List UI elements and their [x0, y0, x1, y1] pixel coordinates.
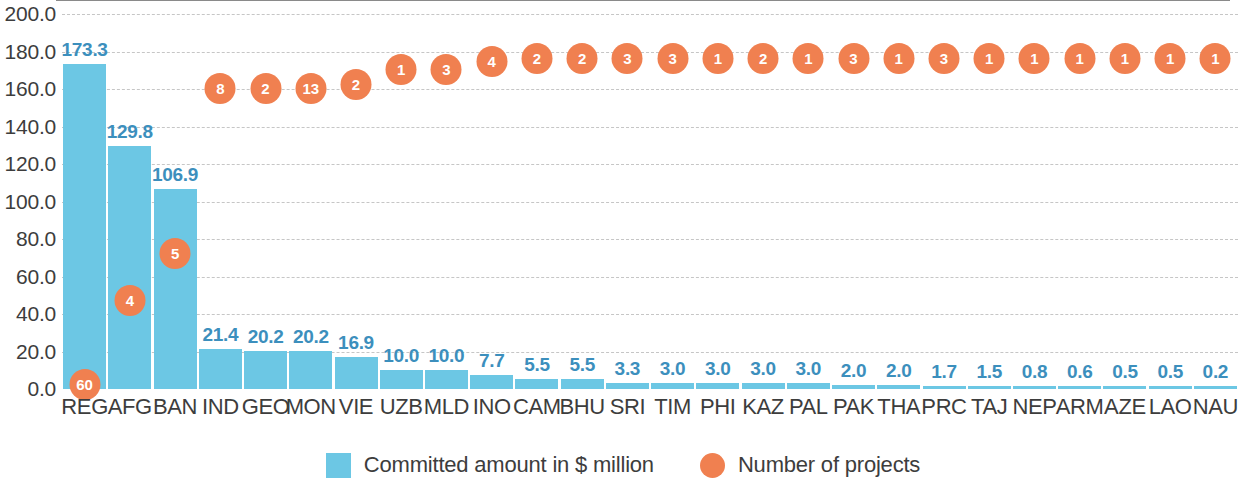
bar-group[interactable]: 10.03 — [425, 0, 468, 392]
legend-label: Number of projects — [738, 452, 920, 478]
bar-group[interactable]: 0.51 — [1149, 0, 1192, 392]
bar-group[interactable]: 10.01 — [380, 0, 423, 392]
bar-group[interactable]: 0.61 — [1058, 0, 1101, 392]
bar[interactable] — [1149, 386, 1192, 389]
bar-group[interactable]: 3.33 — [606, 0, 649, 392]
bar[interactable] — [696, 383, 739, 389]
project-count-bubble[interactable]: 4 — [114, 285, 145, 316]
bar[interactable] — [742, 383, 785, 389]
bar[interactable] — [289, 351, 332, 389]
bar[interactable] — [968, 386, 1011, 389]
bar[interactable] — [470, 375, 513, 389]
bar-group[interactable]: 3.01 — [787, 0, 830, 392]
x-tick-slot: TAJ — [967, 394, 1012, 430]
project-count-bubble[interactable]: 2 — [567, 43, 598, 74]
project-count-bubble[interactable]: 8 — [205, 73, 236, 104]
bar[interactable] — [244, 351, 287, 389]
bar[interactable] — [651, 383, 694, 389]
bar[interactable] — [1013, 386, 1056, 389]
y-tick-label: 120.0 — [4, 152, 56, 176]
project-count-bubble[interactable]: 2 — [250, 73, 281, 104]
project-count-bubble[interactable]: 3 — [657, 43, 688, 74]
project-count-bubble[interactable]: 3 — [431, 54, 462, 85]
project-count-bubble[interactable]: 1 — [1109, 43, 1140, 74]
bar-group[interactable]: 129.84 — [108, 0, 151, 392]
project-count-bubble[interactable]: 3 — [612, 43, 643, 74]
bar[interactable] — [154, 189, 197, 389]
bar[interactable] — [787, 383, 830, 389]
bar[interactable] — [335, 357, 378, 389]
project-count-bubble[interactable]: 1 — [1064, 43, 1095, 74]
bar-group[interactable]: 3.03 — [651, 0, 694, 392]
bar-group[interactable]: 3.01 — [696, 0, 739, 392]
x-tick-slot: PRC — [921, 394, 966, 430]
bar-group[interactable]: 0.21 — [1194, 0, 1237, 392]
project-count-bubble[interactable]: 2 — [748, 43, 779, 74]
bar-group[interactable]: 20.22 — [244, 0, 287, 392]
legend-circle-icon — [700, 453, 725, 478]
project-count-bubble[interactable]: 1 — [1155, 43, 1186, 74]
project-count-bubble[interactable]: 1 — [386, 54, 417, 85]
bar-group[interactable]: 16.92 — [335, 0, 378, 392]
project-count-bubble[interactable]: 1 — [702, 43, 733, 74]
bar-group[interactable]: 0.81 — [1013, 0, 1056, 392]
project-count-bubble[interactable]: 1 — [974, 43, 1005, 74]
legend-item[interactable]: Number of projects — [700, 452, 920, 478]
project-count-bubble[interactable]: 1 — [883, 43, 914, 74]
bar[interactable] — [515, 379, 558, 389]
bar[interactable] — [380, 370, 423, 389]
project-count-bubble[interactable]: 3 — [838, 43, 869, 74]
bar[interactable] — [425, 370, 468, 389]
project-count-bubble[interactable]: 4 — [476, 46, 507, 77]
x-tick-label: KAZ — [742, 394, 784, 420]
bar-group[interactable]: 2.01 — [877, 0, 920, 392]
bar-group[interactable]: 2.03 — [832, 0, 875, 392]
project-count-bubble[interactable]: 5 — [160, 238, 191, 269]
legend-item[interactable]: Committed amount in $ million — [326, 452, 654, 478]
x-tick-slot: BHU — [560, 394, 605, 430]
x-tick-slot: VIE — [333, 394, 378, 430]
bar[interactable] — [923, 386, 966, 389]
x-tick-label: TAJ — [971, 394, 1007, 420]
bar-group[interactable]: 3.02 — [742, 0, 785, 392]
bar[interactable] — [1103, 386, 1146, 389]
bar-group[interactable]: 0.51 — [1103, 0, 1146, 392]
project-count-bubble[interactable]: 3 — [929, 43, 960, 74]
bar-group[interactable]: 106.95 — [154, 0, 197, 392]
bar-group[interactable]: 1.73 — [923, 0, 966, 392]
bar-group[interactable]: 5.52 — [515, 0, 558, 392]
x-tick-label: AFG — [108, 394, 152, 420]
bar-value-label: 0.5 — [1157, 361, 1183, 383]
bar[interactable] — [1058, 386, 1101, 389]
legend-square-icon — [326, 453, 351, 478]
project-count-bubble[interactable]: 13 — [295, 73, 326, 104]
bar[interactable] — [561, 379, 604, 389]
bar-group[interactable]: 5.52 — [561, 0, 604, 392]
chart-legend: Committed amount in $ millionNumber of p… — [0, 452, 1246, 478]
bar-group[interactable]: 7.74 — [470, 0, 513, 392]
bar-group[interactable]: 1.51 — [968, 0, 1011, 392]
bar[interactable] — [63, 64, 106, 389]
bar[interactable] — [199, 349, 242, 389]
bar-group[interactable]: 21.48 — [199, 0, 242, 392]
y-tick-label: 160.0 — [4, 77, 56, 101]
bar-group[interactable]: 20.213 — [289, 0, 332, 392]
bar[interactable] — [1194, 386, 1237, 389]
x-tick-slot: THA — [876, 394, 921, 430]
x-tick-label: REG — [61, 394, 107, 420]
project-count-bubble[interactable]: 1 — [793, 43, 824, 74]
bar-value-label: 3.0 — [705, 358, 731, 380]
bar[interactable] — [832, 385, 875, 389]
project-count-bubble[interactable]: 2 — [341, 69, 372, 100]
project-count-bubble[interactable]: 2 — [521, 43, 552, 74]
x-tick-slot: AZE — [1102, 394, 1147, 430]
x-tick-label: IND — [202, 394, 239, 420]
project-count-bubble[interactable]: 1 — [1019, 43, 1050, 74]
bar-value-label: 16.9 — [338, 332, 374, 354]
bar[interactable] — [606, 383, 649, 389]
bar[interactable] — [108, 146, 151, 389]
x-tick-slot: INO — [469, 394, 514, 430]
bar-group[interactable]: 173.360 — [63, 0, 106, 392]
project-count-bubble[interactable]: 1 — [1200, 43, 1231, 74]
bar[interactable] — [877, 385, 920, 389]
